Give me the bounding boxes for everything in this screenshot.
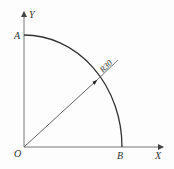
point-b-label: B (117, 150, 123, 161)
arc-diagram: Y X O A B R30 (0, 0, 174, 169)
x-axis-label: X (154, 150, 162, 161)
quarter-arc (24, 35, 122, 147)
radius-dimension-label: R30 (97, 57, 115, 75)
radius-line (24, 80, 97, 147)
diagram-canvas: Y X O A B R30 (0, 0, 174, 169)
point-a-label: A (13, 30, 21, 41)
y-axis-label: Y (29, 9, 36, 20)
origin-label: O (14, 148, 21, 159)
